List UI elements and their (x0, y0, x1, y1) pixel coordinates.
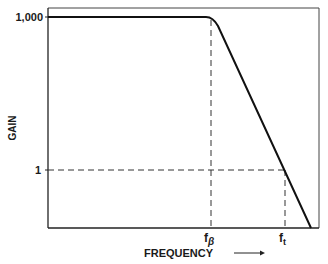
y-axis-label: GAIN (7, 116, 18, 141)
arrowhead-icon (260, 251, 265, 256)
gain-curve (48, 17, 311, 228)
f-t-subscript: t (283, 237, 286, 247)
f-beta-subscript: β (207, 236, 214, 247)
x-axis-label: FREQUENCY (144, 247, 214, 259)
f-beta-label: fβ (204, 231, 214, 247)
y-tick-label-1000: 1,000 (15, 11, 43, 23)
gain-frequency-plot: 1,000 1 GAIN fβ ft FREQUENCY (0, 0, 328, 264)
f-t-label: ft (279, 231, 286, 247)
y-tick-label-1: 1 (35, 164, 41, 176)
